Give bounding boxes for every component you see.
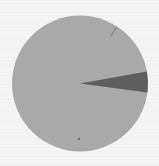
speck: [78, 138, 80, 140]
pie-chart: [0, 0, 159, 166]
